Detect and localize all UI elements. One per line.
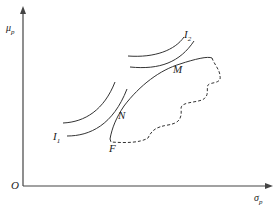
point-label-m: M bbox=[172, 63, 183, 75]
point-label-n: N bbox=[117, 109, 126, 121]
indifference-curve-i1-outer bbox=[63, 82, 115, 123]
curve-label-i1: I1 bbox=[52, 130, 60, 145]
indifference-curve-i2-inner bbox=[130, 41, 194, 68]
point-label-f: F bbox=[108, 142, 116, 154]
x-axis-arrow-icon bbox=[265, 183, 273, 189]
indifference-curve-i2-outer bbox=[128, 37, 184, 56]
portfolio-diagram: μp σp O I1 I2 N M F bbox=[0, 0, 280, 212]
curve-label-i2: I2 bbox=[183, 28, 192, 43]
axes bbox=[20, 6, 273, 189]
x-axis-label: σp bbox=[254, 192, 263, 206]
y-axis-label: μp bbox=[5, 22, 15, 36]
efficient-frontier bbox=[110, 57, 212, 139]
feasible-set-boundary bbox=[110, 58, 220, 143]
origin-label: O bbox=[11, 179, 19, 191]
y-axis-arrow-icon bbox=[20, 6, 26, 14]
